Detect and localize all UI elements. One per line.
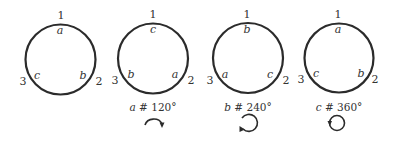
diagram-rotation-240: 1 2 3 b c a b # 240° [207,8,290,132]
caption-angle: 120° [151,101,176,113]
position-3-label: 3 [298,73,305,86]
caption-operator: # [234,101,243,113]
position-1-label: 1 [150,8,157,21]
position-2-label: 2 [188,74,195,87]
caption-operator: # [325,101,334,113]
caption-variable: a [129,101,135,113]
vertex-label-top: a [57,24,64,37]
vertex-label-left: a [222,68,229,81]
vertex-label-top: a [335,23,342,36]
vertex-label-top: b [243,23,250,36]
caption-variable: b [224,101,231,113]
caption-operator: # [139,101,148,113]
position-2-label: 2 [283,74,290,87]
position-3-label: 3 [20,75,27,88]
rotation-arrow-240-icon [240,114,258,132]
vertex-label-left: b [127,68,134,81]
vertex-label-right: b [79,69,86,82]
vertex-label-left: c [34,69,40,82]
triangle-rotation-diagram: 1 2 3 a b c 1 2 3 c a b a # 120° 1 2 3 b… [0,0,398,144]
position-2-label: 2 [372,73,379,86]
vertex-label-right: a [172,68,179,81]
rotation-caption: b # 240° [224,101,272,113]
vertex-label-top: c [150,23,156,36]
caption-variable: c [316,101,322,113]
position-1-label: 1 [244,8,251,21]
vertex-label-right: b [357,67,364,80]
diagram-rotation-120: 1 2 3 c a b a # 120° [112,8,195,128]
position-1-label: 1 [335,8,342,21]
position-1-label: 1 [58,9,65,22]
position-2-label: 2 [96,75,103,88]
diagram-rotation-360: 1 2 3 a b c c # 360° [298,8,379,131]
diagram-identity: 1 2 3 a b c [20,9,103,95]
rotation-caption: c # 360° [316,101,363,113]
caption-angle: 360° [337,101,362,113]
rotation-arrow-360-icon [328,116,345,131]
rotation-caption: a # 120° [129,101,176,113]
position-3-label: 3 [112,74,119,87]
caption-angle: 240° [246,101,271,113]
rotation-arrow-120-icon [145,119,165,128]
vertex-label-right: c [267,68,273,81]
vertex-label-left: c [313,67,319,80]
position-3-label: 3 [207,74,214,87]
